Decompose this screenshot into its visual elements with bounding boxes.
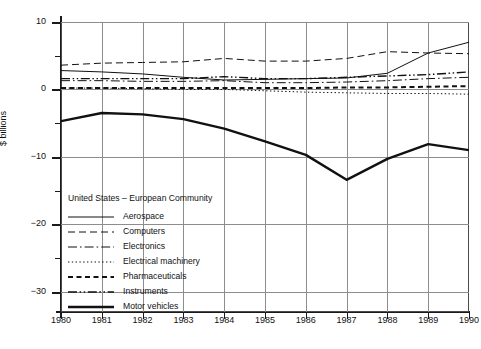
- legend-line-swatch: [68, 226, 114, 238]
- x-tick-label: 1988: [367, 316, 407, 325]
- x-tick-label: 1987: [327, 316, 367, 325]
- legend-item: Aerospace: [68, 209, 258, 224]
- y-tick-label: −30: [0, 287, 46, 296]
- chart-figure: $ billions 100−10−20−30 1980198119821983…: [0, 0, 481, 349]
- x-tick-label: 1985: [245, 316, 285, 325]
- legend-item: Pharmaceuticals: [68, 269, 258, 284]
- legend-line-swatch: [68, 241, 114, 253]
- legend-item-label: Computers: [123, 226, 165, 237]
- x-tick-label: 1989: [408, 316, 448, 325]
- y-tick-label: −10: [0, 152, 46, 161]
- legend-item-label: Instruments: [123, 286, 168, 297]
- x-tick-label: 1980: [41, 316, 81, 325]
- legend-item: Electrical machinery: [68, 254, 258, 269]
- legend-item: Electronics: [68, 239, 258, 254]
- x-tick-label: 1983: [163, 316, 203, 325]
- y-tick-minor: [55, 123, 61, 124]
- legend-item-label: Electrical machinery: [123, 256, 200, 267]
- y-tick-minor: [55, 191, 61, 192]
- x-tick-label: 1984: [204, 316, 244, 325]
- legend-item: Instruments: [68, 284, 258, 299]
- x-tick-label: 1990: [449, 316, 481, 325]
- legend-item-label: Motor vehicles: [123, 301, 178, 312]
- legend: United States – European Community Aeros…: [68, 193, 258, 314]
- series-line: [61, 86, 469, 88]
- legend-line-swatch: [68, 301, 114, 313]
- y-tick-major: [52, 89, 61, 91]
- legend-line-swatch: [68, 256, 114, 268]
- legend-items: AerospaceComputersElectronicsElectrical …: [68, 209, 258, 314]
- x-tick-label: 1981: [82, 316, 122, 325]
- y-tick-major: [52, 157, 61, 159]
- series-line: [61, 113, 469, 180]
- legend-title: United States – European Community: [68, 193, 258, 204]
- legend-item-label: Electronics: [123, 241, 165, 252]
- legend-item-label: Pharmaceuticals: [123, 271, 187, 282]
- legend-line-swatch: [68, 211, 114, 223]
- y-tick-major: [52, 292, 61, 294]
- y-axis-title: $ billions: [0, 111, 8, 146]
- x-tick-label: 1986: [286, 316, 326, 325]
- legend-line-swatch: [68, 271, 114, 283]
- y-tick-major: [52, 224, 61, 226]
- legend-line-swatch: [68, 286, 114, 298]
- legend-item: Motor vehicles: [68, 299, 258, 314]
- y-tick-label: 10: [0, 17, 46, 26]
- y-tick-major: [52, 22, 61, 24]
- y-tick-minor: [55, 56, 61, 57]
- y-tick-minor: [55, 258, 61, 259]
- legend-item: Computers: [68, 224, 258, 239]
- legend-item-label: Aerospace: [123, 211, 164, 222]
- y-tick-label: −20: [0, 219, 46, 228]
- x-tick-label: 1982: [123, 316, 163, 325]
- y-tick-label: 0: [0, 84, 46, 93]
